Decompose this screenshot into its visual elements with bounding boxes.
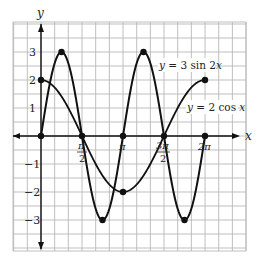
- data-point: [38, 133, 44, 139]
- data-point: [161, 133, 167, 139]
- x-tick-3pi-half-num: 3π: [156, 140, 169, 151]
- y-tick-1: 1: [29, 102, 36, 115]
- y-tick-2: 2: [29, 74, 36, 87]
- cos-curve-label: y = 2 cos x: [186, 101, 245, 113]
- x-tick-pi-half-den: 2: [79, 153, 85, 164]
- x-tick-pi-half-num: π: [77, 140, 85, 151]
- y-tick-minus-2: −2: [24, 186, 40, 199]
- trig-graph: y x 3 2 1 −1 −2 −3 π 2 π 3π 2 2π y = 3 s…: [0, 0, 262, 257]
- data-point: [120, 189, 126, 195]
- x-tick-3pi-half-den: 2: [160, 153, 166, 164]
- y-tick-minus-1: −1: [24, 158, 40, 171]
- x-axis-right-arrow-icon: [232, 133, 240, 139]
- data-point: [202, 133, 208, 139]
- data-point: [202, 77, 208, 83]
- y-axis-label: y: [36, 6, 44, 20]
- data-point: [99, 217, 105, 223]
- x-tick-pi: π: [118, 141, 126, 152]
- sin-curve-label: y = 3 sin 2x: [158, 59, 222, 71]
- data-point: [120, 133, 126, 139]
- data-point: [38, 77, 44, 83]
- data-point: [140, 49, 146, 55]
- data-point: [181, 217, 187, 223]
- y-tick-minus-3: −3: [24, 214, 40, 227]
- data-point: [58, 49, 64, 55]
- y-axis-down-arrow-icon: [38, 242, 44, 250]
- y-tick-3: 3: [29, 46, 36, 59]
- x-tick-2pi: 2π: [197, 141, 211, 152]
- x-axis-label: x: [245, 129, 252, 143]
- y-axis-up-arrow-icon: [38, 24, 44, 32]
- data-point: [79, 133, 85, 139]
